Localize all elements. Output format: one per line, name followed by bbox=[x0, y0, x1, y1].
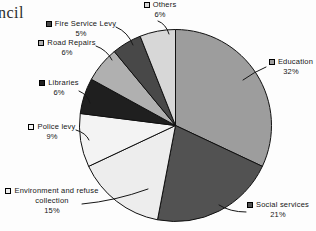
callout-row: Social services bbox=[244, 200, 312, 210]
pie-slices bbox=[80, 30, 272, 222]
callout-row: Education bbox=[266, 57, 316, 67]
legend-key-social-services bbox=[247, 202, 253, 208]
slice-percent: 6% bbox=[136, 10, 184, 20]
legend-key-environment-refuse bbox=[5, 188, 11, 194]
callout-education: Education 32% bbox=[266, 57, 316, 77]
slice-percent: 15% bbox=[2, 206, 102, 216]
slice-label: Libraries bbox=[48, 78, 79, 87]
slice-percent: 6% bbox=[36, 88, 82, 98]
callout-others: Others 6% bbox=[136, 0, 184, 20]
slice-label: Road Repairs bbox=[47, 38, 95, 47]
legend-key-road-repairs bbox=[38, 40, 44, 46]
legend-key-fire-service-levy bbox=[46, 21, 52, 27]
slice-percent: 9% bbox=[26, 132, 78, 142]
slice-label: Education bbox=[278, 57, 313, 66]
callout-row: Police levy bbox=[26, 122, 78, 132]
callout-environment-refuse: Environment and refuse collection 15% bbox=[2, 186, 102, 216]
callout-row: Environment and refuse collection bbox=[2, 186, 102, 206]
slice-label: Police levy bbox=[37, 122, 75, 131]
slice-percent: 5% bbox=[42, 29, 120, 39]
callout-row: Libraries bbox=[36, 78, 82, 88]
legend-key-others bbox=[144, 2, 150, 8]
callout-libraries: Libraries 6% bbox=[36, 78, 82, 98]
callout-row: Others bbox=[136, 0, 184, 10]
slice-percent: 21% bbox=[244, 210, 312, 220]
callout-police-levy: Police levy 9% bbox=[26, 122, 78, 142]
callout-road-repairs: Road Repairs 6% bbox=[36, 38, 98, 58]
legend-key-education bbox=[269, 59, 275, 65]
slice-percent: 6% bbox=[36, 48, 98, 58]
callout-row: Road Repairs bbox=[36, 38, 98, 48]
callout-social-services: Social services 21% bbox=[244, 200, 312, 220]
callout-fire-service-levy: Fire Service Levy 5% bbox=[42, 19, 120, 39]
slice-label: Environment and refuse collection bbox=[14, 186, 98, 205]
legend-key-police-levy bbox=[28, 124, 34, 130]
callout-row: Fire Service Levy bbox=[42, 19, 120, 29]
slice-label: Social services bbox=[256, 200, 309, 209]
budget-pie-chart-figure: ncil Education 32% Social services 21% E… bbox=[0, 0, 316, 231]
slice-label: Others bbox=[153, 0, 177, 9]
slice-percent: 32% bbox=[266, 67, 316, 77]
slice-label: Fire Service Levy bbox=[55, 19, 116, 28]
legend-key-libraries bbox=[39, 80, 45, 86]
